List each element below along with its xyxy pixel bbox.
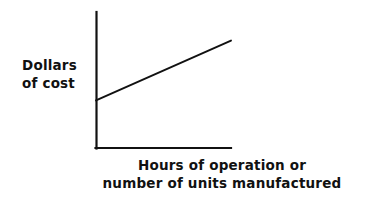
x-axis-label-line-1: Hours of operation or — [96, 156, 348, 174]
y-axis-label-line-2: of cost — [22, 74, 77, 92]
x-axis-label-line-2: number of units manufactured — [96, 174, 348, 192]
x-axis-label: Hours of operation or number of units ma… — [96, 156, 348, 192]
y-axis-label-line-1: Dollars — [22, 56, 77, 74]
y-axis-label: Dollars of cost — [22, 56, 77, 92]
cost-behavior-figure: Dollars of cost Hours of operation or nu… — [0, 0, 374, 203]
